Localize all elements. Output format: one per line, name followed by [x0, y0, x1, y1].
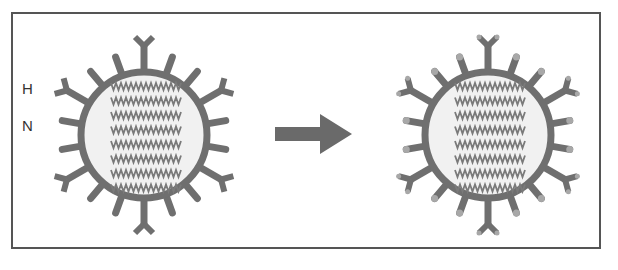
diagram-art	[0, 0, 618, 270]
virus-after	[396, 35, 580, 236]
arrow-icon	[275, 114, 352, 154]
virus-before	[55, 37, 234, 233]
